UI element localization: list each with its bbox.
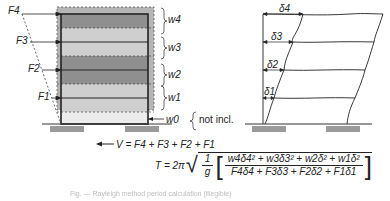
label-delta4: δ4 <box>279 4 290 14</box>
inverse-g: 1 g <box>202 153 214 178</box>
rayleigh-fraction: w4δ4² + w3δ3² + w2δ² + w1δ² F4δ4 + F3δ3 … <box>225 153 363 178</box>
footing-right-2 <box>326 126 360 132</box>
footing-left-2 <box>125 126 159 132</box>
footing-right-1 <box>252 126 286 132</box>
label-delta1: δ1 <box>264 87 275 97</box>
label-delta3: δ3 <box>271 32 282 42</box>
caption: Fig. — Rayleigh method period calculatio… <box>70 190 231 197</box>
footing-left-1 <box>50 126 84 132</box>
sqrt-icon: √ <box>186 152 198 178</box>
band-w0 <box>61 112 148 124</box>
label-w2: w2 <box>168 70 181 80</box>
band-w4-dark <box>61 14 148 28</box>
label-F1: F1 <box>38 92 50 102</box>
label-w0: w0 <box>166 115 179 125</box>
period-formula: T = 2π √ 1 g [ w4δ4² + w3δ3² + w2δ² + w1… <box>155 148 372 182</box>
label-w3: w3 <box>168 43 181 53</box>
label-F4: F4 <box>8 6 20 16</box>
formula-lhs: T = 2π <box>155 160 185 171</box>
label-w4: w4 <box>168 15 181 25</box>
right-bracket-icon: ] <box>365 153 372 179</box>
label-F2: F2 <box>28 64 40 74</box>
label-F3: F3 <box>16 36 28 46</box>
label-w1: w1 <box>168 93 181 103</box>
label-delta2: δ2 <box>267 60 278 70</box>
left-bracket-icon: [ <box>215 153 222 179</box>
label-not-included: not incl. <box>199 115 233 125</box>
